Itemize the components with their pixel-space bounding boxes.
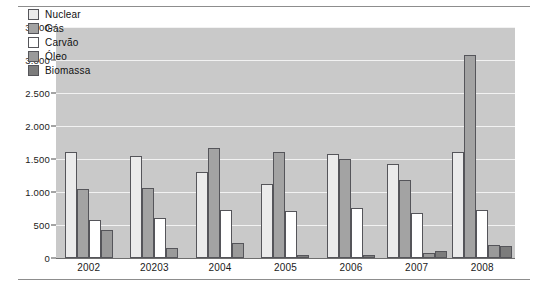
bottom-divider-rule (18, 279, 530, 280)
x-axis-tick-label: 2005 (274, 262, 297, 273)
y-axis-tick-label: 1.000 (25, 187, 50, 198)
bar (232, 243, 244, 258)
bar (77, 189, 89, 258)
bar-group (318, 27, 384, 258)
bar (196, 172, 208, 258)
bar (399, 180, 411, 258)
bar (220, 210, 232, 258)
y-axis-tick-mark (51, 126, 56, 127)
y-axis-tick-label: 1.500 (25, 154, 50, 165)
y-axis-tick-mark (51, 60, 56, 61)
y-axis-tick-mark (51, 93, 56, 94)
legend-swatch-icon (28, 23, 39, 34)
y-axis-tick-mark (51, 159, 56, 160)
chart-legend: NuclearGásCarvãoÓleoBiomassa (28, 8, 91, 77)
legend-item-biomassa: Biomassa (28, 64, 91, 77)
x-axis-tick-label: 2002 (77, 262, 100, 273)
y-axis-tick-label: 2.500 (25, 88, 50, 99)
y-axis-tick-label: 2.000 (25, 121, 50, 132)
x-axis-tick-label: 2006 (340, 262, 363, 273)
x-axis-tick-label: 2004 (208, 262, 231, 273)
bar-chart-figure: 05001.0001.5002.0002.5003.0003.500 20022… (0, 0, 546, 286)
bar (500, 246, 512, 258)
y-axis-tick-mark (51, 27, 56, 28)
legend-item-gás: Gás (28, 22, 91, 35)
legend-swatch-icon (28, 9, 39, 20)
legend-swatch-icon (28, 65, 39, 76)
x-axis-tick-label: 2008 (471, 262, 494, 273)
bar-group (449, 27, 515, 258)
bar (130, 156, 142, 258)
bar (452, 152, 464, 258)
y-axis-tick-label: 500 (34, 220, 50, 231)
x-axis-baseline (56, 258, 515, 259)
bar (327, 154, 339, 258)
legend-item-label: Biomassa (45, 65, 91, 76)
bar (154, 218, 166, 258)
legend-swatch-icon (28, 51, 39, 62)
legend-item-óleo: Óleo (28, 50, 91, 63)
x-axis-tick-label: 20203 (140, 262, 169, 273)
bar (261, 184, 273, 258)
bar (273, 152, 285, 258)
bar-group (187, 27, 253, 258)
bar (208, 148, 220, 258)
bar (89, 220, 101, 258)
bar-group (384, 27, 450, 258)
bar (339, 159, 351, 258)
plot-area (56, 27, 515, 258)
legend-item-nuclear: Nuclear (28, 8, 91, 21)
y-axis-tick-mark (51, 258, 56, 259)
y-axis-tick-mark (51, 192, 56, 193)
legend-item-carvão: Carvão (28, 36, 91, 49)
bar (142, 188, 154, 258)
bar (387, 164, 399, 258)
y-axis-tick-label: 0 (45, 253, 50, 264)
bar (351, 208, 363, 258)
bar-group (253, 27, 319, 258)
bar (411, 213, 423, 258)
bar (464, 55, 476, 258)
bar (166, 248, 178, 258)
bar (435, 251, 447, 258)
legend-swatch-icon (28, 37, 39, 48)
legend-item-label: Carvão (45, 37, 78, 48)
bar (285, 211, 297, 258)
bar (476, 210, 488, 258)
x-axis-tick-label: 2007 (405, 262, 428, 273)
bar (65, 152, 77, 258)
legend-item-label: Nuclear (45, 9, 81, 20)
legend-item-label: Gás (45, 23, 64, 34)
bar-group (122, 27, 188, 258)
bar (488, 245, 500, 258)
bar (101, 230, 113, 258)
y-axis-tick-mark (51, 225, 56, 226)
top-divider-rule (18, 6, 530, 7)
